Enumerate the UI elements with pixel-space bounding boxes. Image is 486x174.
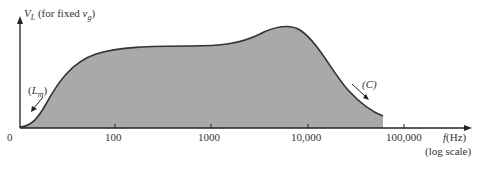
y-label-close: ): [91, 7, 95, 19]
y-axis-label: VL (for fixed vg): [24, 7, 95, 22]
lm-close: ): [44, 84, 48, 96]
lm-arrow-icon: [31, 106, 37, 112]
y-label-rest: (for fixed: [38, 7, 83, 19]
x-axis-scale-note: (log scale): [425, 145, 471, 157]
tick-label-10000: 10,000: [291, 131, 321, 143]
lm-annotation: (Lm): [28, 84, 47, 99]
c-annotation: (C): [362, 78, 377, 90]
tick-label-100000: 100,000: [386, 131, 422, 143]
frequency-response-plot: [0, 0, 486, 174]
tick-label-100: 100: [105, 131, 122, 143]
y-axis-arrow-icon: [17, 16, 23, 24]
y-label-v: V: [24, 7, 31, 19]
origin-label: 0: [7, 131, 13, 143]
response-area: [20, 27, 383, 128]
tick-label-1000: 1000: [198, 131, 220, 143]
x-label-unit: (Hz): [446, 131, 466, 143]
x-axis-label: f(Hz): [443, 131, 466, 143]
y-label-sub: L: [31, 13, 35, 22]
